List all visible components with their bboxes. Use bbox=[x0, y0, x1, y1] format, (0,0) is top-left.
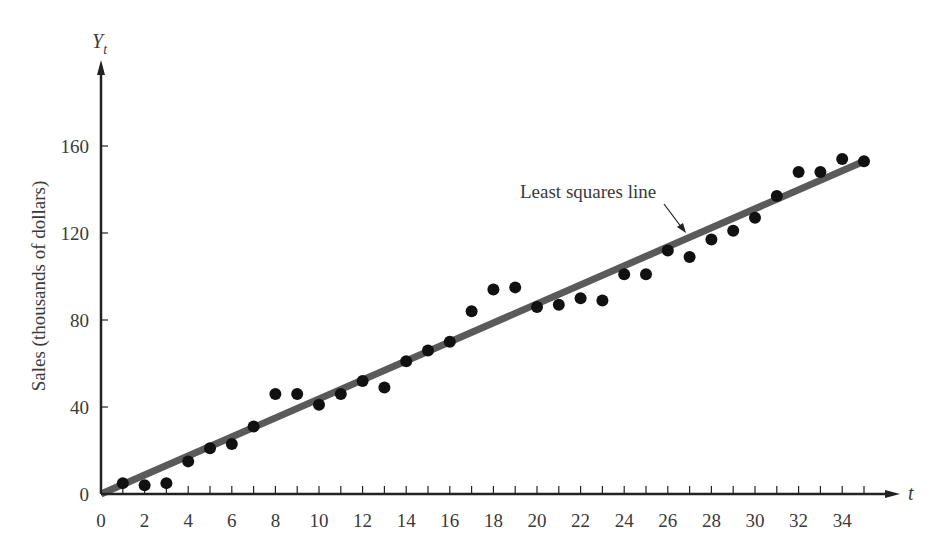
y-tick-label: 0 bbox=[80, 484, 90, 505]
data-point bbox=[858, 155, 870, 167]
x-tick-label: 20 bbox=[528, 510, 547, 531]
x-tick-label: 2 bbox=[140, 510, 150, 531]
data-point bbox=[727, 225, 739, 237]
data-point bbox=[378, 381, 390, 393]
data-point bbox=[291, 388, 303, 400]
data-point bbox=[596, 294, 608, 306]
arrowhead-icon bbox=[677, 223, 686, 233]
data-point bbox=[182, 455, 194, 467]
data-point bbox=[313, 399, 325, 411]
x-tick-label: 14 bbox=[397, 510, 417, 531]
x-axis-arrow-icon bbox=[885, 490, 900, 498]
data-point bbox=[160, 477, 172, 489]
data-point bbox=[749, 212, 761, 224]
annotation: Least squares line bbox=[520, 181, 686, 233]
x-tick-label: 8 bbox=[271, 510, 281, 531]
scatter-chart: 0246810121416182022242628303234040801201… bbox=[0, 0, 943, 553]
y-tick-label: 40 bbox=[70, 397, 89, 418]
data-point bbox=[269, 388, 281, 400]
data-point bbox=[662, 244, 674, 256]
y-axis-arrow-icon bbox=[97, 60, 105, 75]
data-point bbox=[444, 336, 456, 348]
data-point bbox=[793, 166, 805, 178]
data-point bbox=[139, 479, 151, 491]
data-point bbox=[422, 344, 434, 356]
x-tick-label: 6 bbox=[227, 510, 237, 531]
x-tick-label: 32 bbox=[789, 510, 808, 531]
x-tick-label: 12 bbox=[353, 510, 372, 531]
y-axis-title: Sales (thousands of dollars) bbox=[28, 181, 50, 392]
x-tick-label: 30 bbox=[746, 510, 765, 531]
axis-labels: Yt t Sales (thousands of dollars) bbox=[28, 30, 914, 504]
data-point bbox=[509, 281, 521, 293]
x-tick-label: 0 bbox=[96, 510, 106, 531]
axes bbox=[97, 60, 900, 498]
x-tick-label: 10 bbox=[310, 510, 329, 531]
data-point bbox=[400, 355, 412, 367]
data-point bbox=[531, 301, 543, 313]
data-point bbox=[226, 438, 238, 450]
x-tick-label: 18 bbox=[484, 510, 503, 531]
data-point bbox=[575, 292, 587, 304]
data-point bbox=[684, 251, 696, 263]
y-tick-label: 160 bbox=[61, 136, 90, 157]
x-tick-label: 22 bbox=[571, 510, 590, 531]
data-point bbox=[487, 284, 499, 296]
data-point bbox=[618, 268, 630, 280]
x-tick-label: 16 bbox=[440, 510, 459, 531]
y-tick-label: 80 bbox=[70, 310, 89, 331]
least-squares-line bbox=[101, 161, 864, 494]
x-tick-label: 4 bbox=[183, 510, 193, 531]
data-point bbox=[204, 442, 216, 454]
data-point bbox=[466, 305, 478, 317]
data-point bbox=[117, 477, 129, 489]
data-point bbox=[836, 153, 848, 165]
least-squares-label: Least squares line bbox=[520, 181, 656, 202]
data-point bbox=[640, 268, 652, 280]
x-tick-label: 26 bbox=[658, 510, 677, 531]
data-point bbox=[814, 166, 826, 178]
data-point bbox=[771, 190, 783, 202]
data-point bbox=[553, 299, 565, 311]
x-tick-label: 34 bbox=[833, 510, 853, 531]
data-point bbox=[705, 234, 717, 246]
x-tick-label: 24 bbox=[615, 510, 635, 531]
x-tick-label: 28 bbox=[702, 510, 721, 531]
data-point bbox=[335, 388, 347, 400]
y-axis-symbol: Yt bbox=[92, 30, 108, 57]
data-point bbox=[357, 375, 369, 387]
y-tick-label: 120 bbox=[61, 223, 90, 244]
annotation-arrow bbox=[664, 204, 682, 228]
x-axis-symbol: t bbox=[908, 482, 914, 504]
data-point bbox=[248, 421, 260, 433]
